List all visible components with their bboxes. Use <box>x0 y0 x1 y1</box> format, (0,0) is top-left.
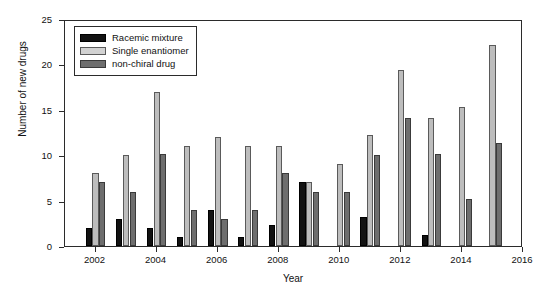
x-axis-tick <box>278 247 279 252</box>
legend-item-single-enantiomer: Single enantiomer <box>80 45 189 57</box>
x-axis-tick <box>156 247 157 252</box>
bar-nonchiral-2009 <box>313 192 319 246</box>
bar-nonchiral-2006 <box>221 219 227 246</box>
y-axis-tick-label: 15 <box>18 106 52 116</box>
x-axis-tick <box>400 247 401 252</box>
bar-single-2004 <box>154 92 160 246</box>
bar-nonchiral-2013 <box>435 154 441 246</box>
legend-item-non-chiral: non-chiral drug <box>80 58 189 70</box>
y-axis-title: Number of new drugs <box>18 19 28 159</box>
bar-single-2006 <box>215 137 221 246</box>
legend-label-racemic: Racemic mixture <box>112 33 183 43</box>
bar-single-2015 <box>489 45 495 246</box>
x-axis-tick-label: 2006 <box>197 255 237 265</box>
x-axis-tick-label: 2002 <box>75 255 115 265</box>
x-axis-tick-label: 2012 <box>380 255 420 265</box>
bar-racemic-2003 <box>116 219 122 246</box>
bar-racemic-2005 <box>177 237 183 246</box>
y-axis-tick-label: 10 <box>18 151 52 161</box>
y-axis-tick-label: 5 <box>18 197 52 207</box>
x-axis-tick <box>95 247 96 252</box>
bar-nonchiral-2003 <box>130 192 136 246</box>
legend-swatch-icon-racemic <box>80 34 106 42</box>
x-axis-tick-label: 2016 <box>502 255 542 265</box>
legend-swatch-icon-single-enantiomer <box>80 47 106 55</box>
x-axis-tick-label: 2014 <box>441 255 481 265</box>
y-axis-tick-label: 20 <box>18 60 52 70</box>
bar-nonchiral-2014 <box>466 199 472 246</box>
x-axis-tick-label: 2004 <box>136 255 176 265</box>
bar-nonchiral-2011 <box>374 155 380 246</box>
bar-racemic-2006 <box>208 210 214 246</box>
bar-single-2008 <box>276 146 282 246</box>
bar-single-2003 <box>123 155 129 246</box>
bar-single-2005 <box>184 146 190 246</box>
x-axis-tick <box>461 247 462 252</box>
bar-racemic-2013 <box>422 235 428 246</box>
bar-single-2012 <box>398 70 404 246</box>
y-axis-tick <box>59 247 64 248</box>
bar-racemic-2002 <box>86 228 92 246</box>
bar-racemic-2009 <box>299 182 305 246</box>
bar-nonchiral-2007 <box>252 210 258 246</box>
x-axis-tick <box>217 247 218 252</box>
x-axis-tick-label: 2010 <box>319 255 359 265</box>
bar-racemic-2004 <box>147 228 153 246</box>
legend-item-racemic: Racemic mixture <box>80 32 189 44</box>
bar-single-2009 <box>306 182 312 246</box>
bar-racemic-2008 <box>269 225 275 246</box>
bar-nonchiral-2005 <box>191 210 197 246</box>
bar-nonchiral-2008 <box>282 173 288 246</box>
bar-nonchiral-2012 <box>405 118 411 246</box>
x-axis-title: Year <box>64 274 522 284</box>
bar-single-2002 <box>92 173 98 246</box>
bar-nonchiral-2015 <box>496 143 502 246</box>
bar-single-2013 <box>428 118 434 246</box>
bar-single-2014 <box>459 107 465 246</box>
bar-nonchiral-2002 <box>99 182 105 246</box>
chart-legend: Racemic mixture Single enantiomer non-ch… <box>74 26 197 76</box>
x-axis-tick <box>339 247 340 252</box>
bar-nonchiral-2004 <box>160 154 166 246</box>
bar-single-2010 <box>337 164 343 246</box>
bar-single-2011 <box>367 135 373 246</box>
bar-nonchiral-2010 <box>344 192 350 246</box>
legend-label-single-enantiomer: Single enantiomer <box>112 46 189 56</box>
bar-chart: Number of new drugs 0510152025 200220042… <box>0 0 560 297</box>
x-axis-tick <box>522 247 523 252</box>
bar-single-2007 <box>245 146 251 246</box>
y-axis-tick-label: 0 <box>18 242 52 252</box>
legend-swatch-icon-non-chiral <box>80 60 106 68</box>
y-axis-tick-label: 25 <box>18 15 52 25</box>
bar-racemic-2011 <box>360 217 366 246</box>
bar-racemic-2007 <box>238 237 244 246</box>
legend-label-non-chiral: non-chiral drug <box>112 59 175 69</box>
x-axis-tick-label: 2008 <box>258 255 298 265</box>
